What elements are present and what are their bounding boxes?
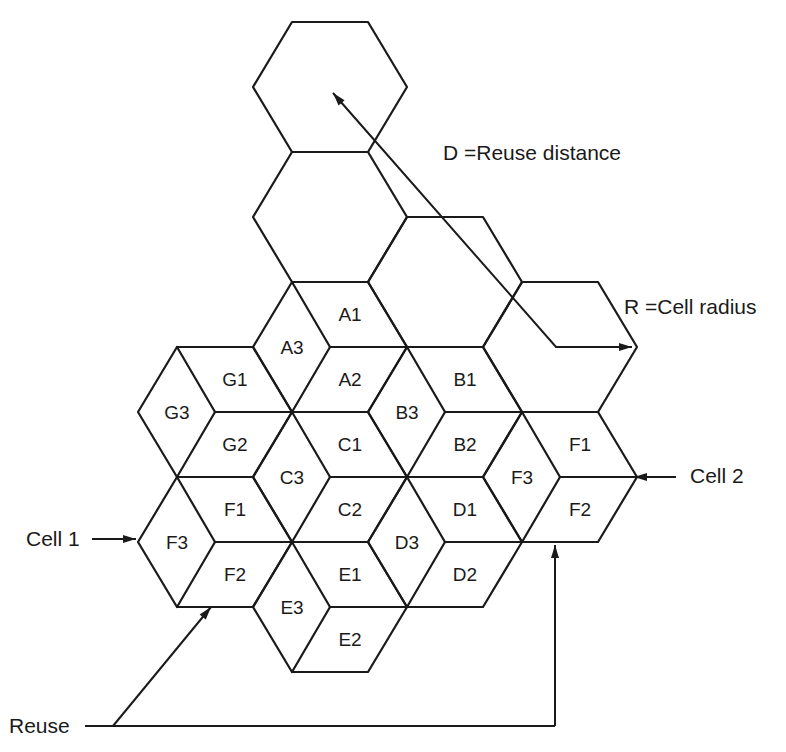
reuse-distance-line <box>333 93 632 347</box>
radius-arrowhead-icon <box>619 343 632 351</box>
cell-label: C1 <box>338 434 362 455</box>
cell-label: G1 <box>222 369 247 390</box>
cluster-f-right: F1F2F3 <box>483 412 637 542</box>
hex-second <box>253 152 407 282</box>
cell-label: G3 <box>164 402 189 423</box>
cell-label: E2 <box>338 629 361 650</box>
cell-label: A2 <box>338 369 361 390</box>
cluster-g: G1G2G3 <box>138 347 292 477</box>
reuse-left-arrow <box>113 607 211 726</box>
cell-label: F2 <box>569 499 591 520</box>
cell1-arrowhead-icon <box>123 535 136 543</box>
cell-label: B1 <box>453 369 476 390</box>
cell1-label: Cell 1 <box>26 527 80 550</box>
cell2-label: Cell 2 <box>690 464 744 487</box>
cell-label: D3 <box>395 532 419 553</box>
cell-label: F2 <box>224 564 246 585</box>
cell-label: D1 <box>453 499 477 520</box>
cluster-d: D1D2D3 <box>368 477 522 607</box>
hex-top <box>253 22 407 152</box>
cluster-a: A1A2A3 <box>253 282 407 412</box>
cell-label: F3 <box>166 532 188 553</box>
plain-hexagons <box>253 22 637 412</box>
cell-label: A1 <box>338 304 361 325</box>
cell-label: B3 <box>395 402 418 423</box>
cell-label: B2 <box>453 434 476 455</box>
cluster-f-left: F1F2F3 <box>138 477 292 607</box>
cell-label: A3 <box>280 337 303 358</box>
cell-label: F1 <box>569 434 591 455</box>
cell-label: C2 <box>338 499 362 520</box>
cell-label: G2 <box>222 434 247 455</box>
cell-clusters: A1A2A3B1B2B3G1G2G3C1C2C3D1D2D3F1F2F3E1E2… <box>138 282 637 672</box>
cluster-e: E1E2E3 <box>253 542 407 672</box>
reuse-right-arrowhead-icon <box>551 545 559 558</box>
reuse-diagram: A1A2A3B1B2B3G1G2G3C1C2C3D1D2D3F1F2F3E1E2… <box>0 0 786 752</box>
cell-label: F1 <box>224 499 246 520</box>
cluster-c: C1C2C3 <box>253 412 407 542</box>
cell-label: E1 <box>338 564 361 585</box>
cell-label: C3 <box>280 467 304 488</box>
cell-label: D2 <box>453 564 477 585</box>
cell-radius-label: R =Cell radius <box>624 295 756 318</box>
cluster-b: B1B2B3 <box>368 347 522 477</box>
reuse-label: Reuse <box>9 714 70 737</box>
cell-label: E3 <box>280 597 303 618</box>
cell-label: F3 <box>511 467 533 488</box>
reuse-distance-label: D =Reuse distance <box>443 141 621 164</box>
